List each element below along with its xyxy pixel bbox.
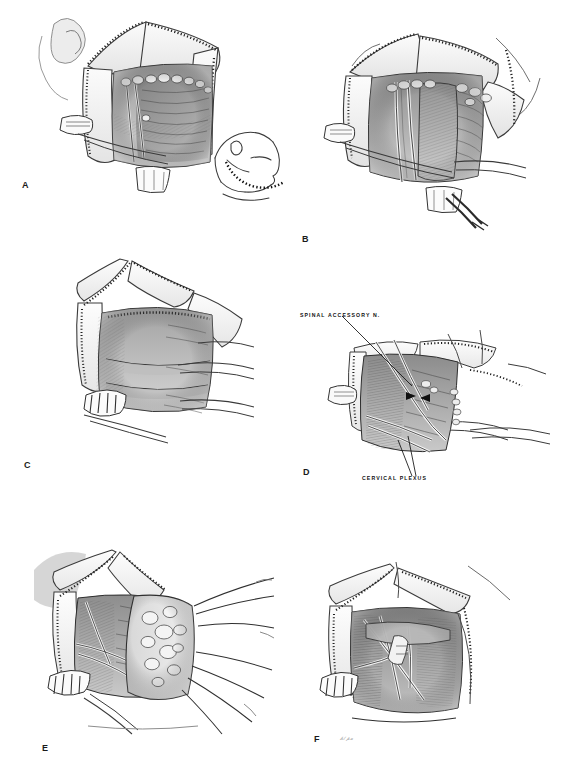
lymph-node-specimen-e bbox=[126, 595, 194, 699]
mastoid-region bbox=[39, 18, 85, 100]
head-and-neck-profile-inset bbox=[205, 128, 287, 206]
panel-f bbox=[308, 560, 548, 742]
completed-dissection-bed-f bbox=[350, 607, 462, 712]
panel-letter-f: F bbox=[314, 735, 320, 744]
panel-letter-c: C bbox=[24, 461, 31, 470]
panel-c bbox=[28, 255, 278, 455]
illustration-plate: A bbox=[0, 0, 568, 781]
panel-b bbox=[300, 30, 562, 230]
panel-letter-a: A bbox=[22, 181, 29, 190]
artist-signature: 𝒽𝓁𝓅𝓃 bbox=[340, 736, 353, 742]
panel-d bbox=[320, 330, 568, 480]
spinal-accessory-nerve-label: SPINAL ACCESSORY N. bbox=[300, 313, 380, 318]
deep-dissection-field-b bbox=[368, 72, 491, 182]
traction-sutures-e bbox=[182, 578, 274, 734]
cervical-plexus-label: CERVICAL PLEXUS bbox=[362, 476, 427, 481]
panel-letter-b: B bbox=[302, 235, 309, 244]
panel-letter-d: D bbox=[303, 468, 310, 477]
panel-letter-e: E bbox=[42, 744, 49, 753]
clamp-f bbox=[320, 672, 358, 697]
operative-field-a bbox=[112, 64, 213, 168]
panel-e bbox=[28, 548, 286, 743]
